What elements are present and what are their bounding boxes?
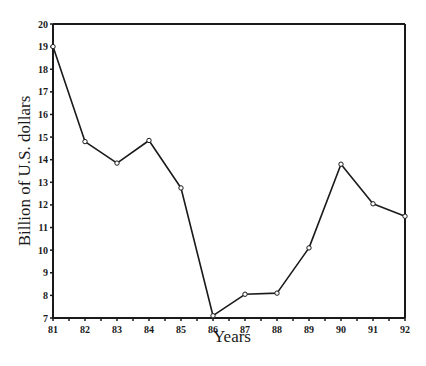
plot-frame bbox=[53, 24, 405, 318]
data-point-marker bbox=[339, 162, 343, 166]
data-point-marker bbox=[403, 214, 407, 218]
x-tick-label: 89 bbox=[304, 324, 314, 335]
x-tick-label: 83 bbox=[112, 324, 122, 335]
data-point-marker bbox=[275, 291, 279, 295]
x-tick-label: 82 bbox=[80, 324, 90, 335]
data-point-marker bbox=[83, 139, 87, 143]
data-point-marker bbox=[211, 314, 215, 318]
data-point-marker bbox=[179, 186, 183, 190]
data-point-marker bbox=[371, 202, 375, 206]
y-tick-label: 15 bbox=[38, 132, 48, 143]
y-tick-label: 7 bbox=[43, 313, 48, 324]
y-tick-label: 13 bbox=[38, 177, 48, 188]
x-tick-label: 90 bbox=[336, 324, 346, 335]
y-tick-label: 14 bbox=[38, 154, 48, 165]
data-point-marker bbox=[307, 246, 311, 250]
data-point-marker bbox=[243, 292, 247, 296]
x-tick-label: 84 bbox=[144, 324, 154, 335]
y-axis: 7891011121314151617181920 bbox=[38, 19, 53, 324]
y-tick-label: 11 bbox=[39, 222, 48, 233]
x-tick-label: 92 bbox=[400, 324, 410, 335]
x-tick-label: 88 bbox=[272, 324, 282, 335]
y-tick-label: 16 bbox=[38, 109, 48, 120]
y-tick-label: 19 bbox=[38, 41, 48, 52]
data-point-marker bbox=[51, 44, 55, 48]
data-point-marker bbox=[115, 161, 119, 165]
y-tick-label: 10 bbox=[38, 245, 48, 256]
line-chart: 7891011121314151617181920 81828384858687… bbox=[0, 0, 426, 366]
y-tick-label: 20 bbox=[38, 19, 48, 30]
y-tick-label: 9 bbox=[43, 267, 48, 278]
data-series bbox=[51, 44, 407, 318]
y-tick-label: 17 bbox=[38, 86, 48, 97]
y-tick-label: 8 bbox=[43, 290, 48, 301]
data-line bbox=[53, 47, 405, 316]
x-tick-label: 85 bbox=[176, 324, 186, 335]
y-tick-label: 12 bbox=[38, 199, 48, 210]
y-tick-label: 18 bbox=[38, 64, 48, 75]
y-axis-title: Billion of U.S. dollars bbox=[15, 96, 34, 247]
x-tick-label: 81 bbox=[48, 324, 58, 335]
x-tick-label: 91 bbox=[368, 324, 378, 335]
x-axis-title: Years bbox=[213, 327, 251, 346]
data-point-marker bbox=[147, 138, 151, 142]
